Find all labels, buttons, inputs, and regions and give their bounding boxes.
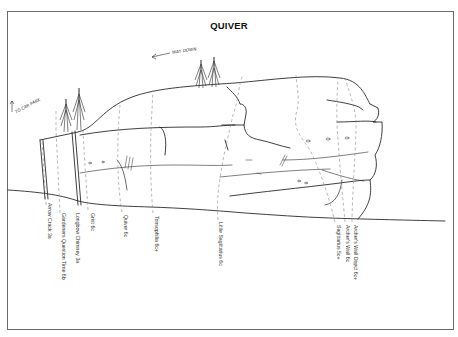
ledge-middle [80,165,232,173]
route-label-tonsophilia: Tonsophilia 6c+ [154,216,159,252]
route-label-quiver: Quiver 6c [123,215,128,237]
pillar-right [72,132,78,205]
route-label-arrow-crack: Arrow Crack 3a [47,203,52,239]
ground-line [8,190,445,221]
route-label-archers-wall: Archer's Wall 6c [345,225,350,262]
rock-outline-top [40,77,370,140]
route-label-longbow-chimney: Longbow Chimney 3a [75,213,80,263]
route-label-archers-wall-direct: Archer's Wall Direct 6c+ [353,225,358,280]
topo-drawing [0,0,458,337]
way-down-arrow [152,53,170,59]
route-label-grist: Grist 6c [90,213,95,231]
route-label-sagittarius: Sagittarius 5c+ [336,225,341,259]
ledge-upper [80,125,235,135]
route-label-gardeners-question-time: Gardeners Question Time 6b [61,213,66,280]
route-label-little-sagittarius: Little Sagittarius 6c [218,222,223,266]
